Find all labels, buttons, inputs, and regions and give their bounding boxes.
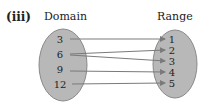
domain-value: 9 xyxy=(57,64,63,75)
range-value: 5 xyxy=(169,78,175,89)
range-values: 1 2 3 4 5 xyxy=(169,34,175,89)
domain-value: 12 xyxy=(54,79,67,90)
domain-value: 3 xyxy=(57,34,63,45)
range-value: 4 xyxy=(169,67,175,78)
range-value: 3 xyxy=(169,56,175,67)
range-value: 2 xyxy=(169,45,175,56)
range-value: 1 xyxy=(169,34,175,45)
domain-value: 6 xyxy=(57,49,63,60)
mapping-diagram: 3 6 9 12 1 2 3 4 5 xyxy=(0,0,210,105)
arrow-12-to-5 xyxy=(72,83,165,84)
